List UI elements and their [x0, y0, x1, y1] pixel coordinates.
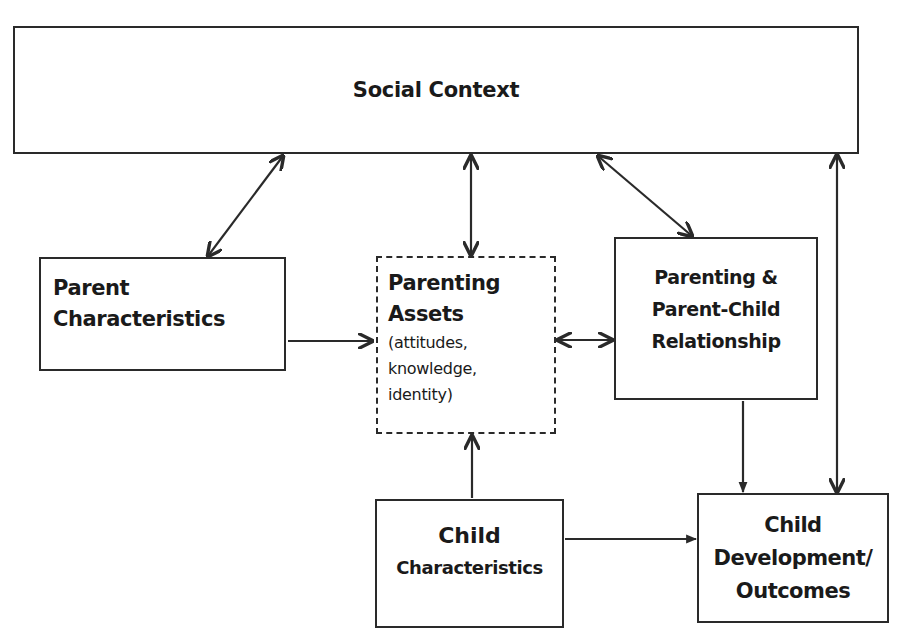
arrow-social-relationship — [598, 156, 692, 236]
arrow-social-parent — [208, 156, 283, 256]
connector-arrows — [0, 0, 904, 644]
